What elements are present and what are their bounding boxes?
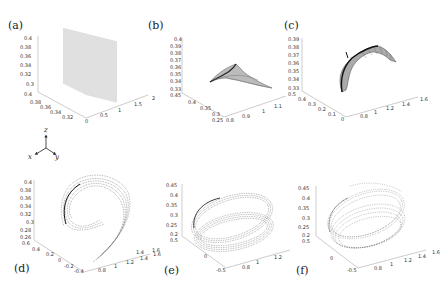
z-tick: 0.25 [166,223,177,228]
y-tick: 1.6 [152,248,160,253]
z-tick: 0.36 [170,65,181,70]
z-tick: 0.35 [298,206,309,211]
y-tick: 1.4 [418,254,426,259]
panel-e: (e) 0.45 0.4 0.35 0.3 0.25 0.2 0.5 0 -0.… [150,170,290,288]
z-tick: 0.4 [24,36,32,41]
z-tick: 0.34 [20,63,31,68]
x-tick: 0.4 [24,92,32,97]
z-tick: 0.38 [20,188,31,193]
axis-orientation-key: z x y [20,128,60,164]
x-tick: 0 [330,256,333,261]
x-tick: 0.5 [170,238,178,243]
y-tick: 1.4 [402,102,410,107]
z-tick: 0.45 [166,183,177,188]
z-tick: 0.39 [170,44,181,49]
z-tick: 0.3 [26,82,34,87]
y-tick: 1 [256,260,259,265]
x-tick: -0.4 [74,269,84,274]
z-tick: 0.4 [302,196,310,201]
z-tick: 0.34 [170,79,181,84]
y-tick: 1.4 [140,256,148,261]
z-tick: 0.3 [26,220,34,225]
z-tick: 0.38 [170,51,181,56]
plot-c [278,0,442,130]
x-tick: -0.5 [347,268,357,273]
y-tick: 1.2 [274,255,282,260]
x-tick: 0 [204,254,207,259]
z-tick: 0.36 [288,61,299,66]
y-tick: 0.8 [360,114,368,119]
z-tick: 0.35 [170,72,181,77]
y-tick: 1.2 [404,258,412,263]
x-tick: 0.34 [50,110,61,115]
x-tick: 0.3 [308,102,316,107]
y-tick: 1 [262,109,265,114]
y-axis-label: y [55,153,59,161]
y-tick: 0.8 [98,268,106,273]
z-tick: 0.34 [288,77,299,82]
x-tick: 0.32 [62,115,73,120]
x-tick: 0 [341,117,344,122]
z-tick: 0.37 [170,58,181,63]
z-tick: 0.4 [24,180,32,185]
z-tick: 0.3 [302,216,310,221]
y-tick: 1.4 [136,250,144,255]
z-tick: 0.38 [20,45,31,50]
x-tick: 0.4 [32,247,40,252]
x-axis-label: x [28,153,32,161]
x-tick: 0.5 [288,92,296,97]
z-tick: 0.35 [166,203,177,208]
y-tick: 1.6 [420,97,428,102]
z-tick: 0.28 [20,228,31,233]
x-tick: 0.4 [298,97,306,102]
panel-b: (b) 0.4 0.39 0.38 0.37 0.36 0.35 0.34 0.… [140,0,290,130]
z-tick: 0.25 [298,225,309,230]
y-tick: 1 [390,262,393,267]
y-tick: 0.9 [242,114,250,119]
z-tick: 0.45 [298,186,309,191]
z-axis-label: z [44,126,48,134]
y-tick: 0.8 [374,266,382,271]
z-tick: 0.34 [20,204,31,209]
z-tick: 0.3 [170,213,178,218]
y-tick: 0.5 [100,113,108,118]
panel-f: (f) 0.45 0.4 0.35 0.3 0.25 0.2 0.5 0 -0.… [290,170,442,288]
z-tick: 0.32 [20,212,31,217]
x-tick: 0.25 [212,118,223,123]
x-tick: 0.45 [170,93,181,98]
y-tick: 1.2 [126,260,134,265]
x-tick: 0.35 [200,106,211,111]
y-tick: 0 [85,119,88,124]
plot-f [290,170,442,288]
x-tick: 0.5 [302,239,310,244]
panel-c: (c) 0.39 0.38 0.37 0.36 0.35 0.34 0.33 0… [278,0,442,130]
panel-d: (d) 0.4 0.38 0.36 0.34 0.32 0.3 0.28 0.2… [0,170,150,288]
x-tick: 0.2 [46,252,54,257]
z-tick: 0.36 [20,54,31,59]
z-tick: 0.36 [20,196,31,201]
x-tick: 0.6 [22,241,30,246]
y-tick: 1 [374,110,377,115]
x-tick: 0.4 [188,100,196,105]
x-tick: 0.2 [318,107,326,112]
y-tick: 1.6 [432,250,440,255]
y-tick: 1 [118,108,121,113]
x-tick: 0 [58,258,61,263]
z-tick: 0.37 [288,53,299,58]
z-tick: 0.38 [288,45,299,50]
z-tick: 0.4 [174,37,182,42]
y-tick: 0.8 [242,265,250,270]
x-tick: 0.1 [328,112,336,117]
x-tick: -0.2 [64,264,74,269]
panel-a: (a) 0.4 0.38 0.36 0.34 0.32 0.3 0.4 0.38… [0,0,150,130]
x-tick: -0.5 [216,268,226,273]
z-tick: 0.32 [20,72,31,77]
z-tick: 0.35 [288,69,299,74]
y-tick: 1.2 [386,106,394,111]
y-tick: 0.8 [226,118,234,123]
z-tick: 0.39 [288,37,299,42]
y-tick: 1 [114,264,117,269]
z-tick: 0.4 [170,193,178,198]
